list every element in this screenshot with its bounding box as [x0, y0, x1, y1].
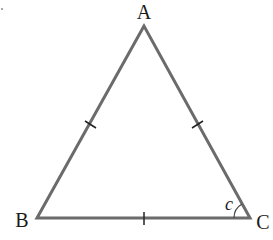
stray-dot	[1, 8, 3, 10]
triangle-abc	[37, 26, 250, 218]
angle-label-c: c	[225, 194, 233, 214]
vertex-label-c: C	[256, 211, 269, 233]
triangle-diagram: A B C c	[0, 0, 273, 240]
vertex-label-a: A	[137, 1, 152, 23]
vertex-label-b: B	[15, 209, 28, 231]
angle-arc-c	[234, 204, 242, 218]
